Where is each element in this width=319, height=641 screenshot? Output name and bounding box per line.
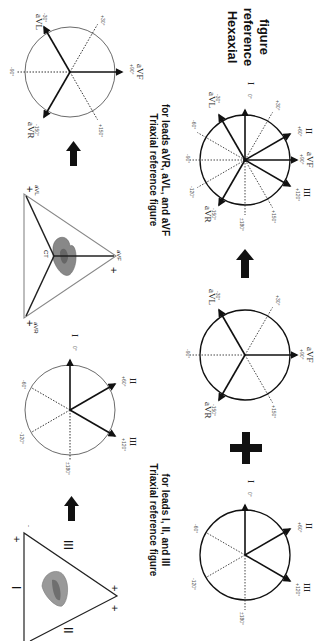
axis-minus120 — [31, 410, 70, 433]
hex-lead-aVR — [219, 160, 245, 205]
plus-connector-icon — [230, 432, 262, 464]
hex-label-III: III — [302, 188, 312, 197]
flow-arrow-3 — [236, 249, 254, 278]
angle-minus120: -120° — [19, 432, 25, 444]
title-hexaxial-line3: figure — [257, 19, 272, 55]
flow-arrow-2 — [64, 496, 79, 521]
hex-lead-II — [245, 134, 290, 160]
hex-label-I: I — [246, 82, 256, 85]
title-hexaxial: Hexaxial reference figure — [225, 8, 272, 67]
hex-angle-minus120: -120° — [189, 186, 195, 198]
std2-angle-minus120: -120° — [191, 578, 197, 590]
plus-right-lower: + — [109, 605, 121, 611]
aug2-angle-plus30: +30° — [275, 295, 281, 305]
plus-top-left: + — [11, 536, 23, 542]
lead-aVR-arrow — [44, 72, 70, 117]
aug2-label-aVF: aVF — [305, 347, 315, 363]
label-III: III — [128, 437, 138, 446]
label-II: II — [128, 378, 138, 384]
hex-angle-plus30: +30° — [275, 100, 281, 110]
hex-lead-III — [245, 160, 290, 186]
std2-axis-minus60 — [206, 533, 245, 556]
title-standard-line2: for leads I, II, and III — [160, 474, 171, 567]
std2-lead-III — [245, 555, 290, 581]
ecg-lead-diagram: aVL -30° +30° -90° +90° aVF aVR -150° +1… — [0, 0, 319, 641]
angle-II: +60° — [121, 376, 127, 386]
hex-angle-minus90: -90° — [185, 154, 191, 163]
std2-angle-minus60: -60° — [193, 524, 199, 533]
axis-plus150 — [70, 72, 98, 120]
hex-angle-III: +120° — [295, 188, 301, 201]
aug2-angle-plus150: +150° — [271, 405, 277, 418]
title-standard-line1: Triaxial reference figure — [148, 464, 159, 577]
label-aVF-tri: aVF — [116, 250, 122, 261]
lead-I-side: I — [9, 586, 23, 589]
plus-right-upper: + — [109, 585, 121, 591]
label-aVL-tri: aVL — [34, 185, 40, 196]
std2-axis-minus120 — [206, 555, 245, 578]
angle-I: 0° — [72, 346, 78, 351]
aug2-angle-aVR: -150° — [211, 404, 217, 416]
std2-angle-180: ±180° — [239, 612, 245, 625]
hex-label-II: II — [304, 128, 314, 134]
augmented-circle-2: aVL -30° +30° -90° +90° aVF aVR -150° +1… — [185, 289, 315, 419]
triaxial-standard-circle: 0° I -60° +60° II -120° +120° III ±180° — [19, 334, 138, 475]
angle-minus60: -60° — [21, 380, 27, 389]
angle-plus150: +150° — [98, 124, 104, 137]
label-I: I — [70, 334, 80, 337]
einthoven-triangle: I II III + + + - — [9, 525, 121, 641]
angle-aVL: -30° — [42, 13, 48, 22]
lead-III-side: III — [61, 540, 75, 550]
title-hexaxial-line1: Hexaxial — [225, 11, 240, 64]
hex-angle-180: ±180° — [239, 218, 245, 231]
std2-angle-III: +120° — [295, 583, 301, 596]
label-aVR-tri: aVR — [33, 322, 39, 334]
std2-angle-I: 0° — [247, 492, 253, 497]
hex-label-aVF: aVF — [305, 152, 315, 168]
aug2-angle-minus90: -90° — [185, 349, 191, 358]
flow-arrow-1 — [66, 141, 81, 166]
title-augmented-line2: for leads aVR, aVL, and aVF — [160, 104, 171, 236]
aug2-axis-plus30 — [245, 307, 273, 355]
minus-top: - — [26, 525, 32, 527]
hex-angle-minus60: -60° — [191, 120, 197, 129]
augmented-triangle: CT + aVL aVF + + aVR — [24, 185, 122, 334]
std2-label-III: III — [302, 583, 312, 592]
aug2-axis-plus150 — [245, 355, 273, 403]
std2-label-I: I — [246, 480, 256, 483]
angle-minus90: -90° — [9, 67, 15, 76]
standard-circle-2: 0° I -60° +60° II -120° +120° III ±180° — [191, 480, 314, 625]
aug2-lead-aVR — [219, 355, 245, 400]
title-augmented-line1: Triaxial reference figure — [148, 114, 159, 227]
lead-II-side: II — [61, 627, 75, 634]
axis-minus60 — [31, 388, 70, 411]
angle-aVR: -150° — [34, 124, 40, 136]
hex-angle-aVF: +90° — [299, 154, 305, 164]
axis-plus30 — [70, 24, 98, 72]
title-augmented: Triaxial reference figure for leads aVR,… — [148, 104, 171, 236]
aug2-angle-aVF: +90° — [299, 349, 305, 359]
plus-aVF: + — [108, 267, 120, 273]
std2-label-II: II — [304, 523, 314, 529]
label-CT: CT — [43, 250, 49, 258]
lead-II-arrow — [70, 384, 115, 410]
hex-angle-aVR: -150° — [211, 208, 217, 220]
title-hexaxial-line2: reference — [241, 8, 256, 67]
lead-aVL-arrow — [44, 27, 70, 72]
std2-lead-II — [245, 529, 290, 555]
lead-III-arrow — [70, 410, 115, 436]
hex-angle-II: +60° — [297, 126, 303, 136]
hex-lead-aVL — [219, 115, 245, 160]
angle-aVF: +90° — [129, 64, 135, 74]
angle-180: ±180° — [65, 462, 71, 475]
angle-plus30: +30° — [100, 15, 106, 25]
angle-III: +120° — [121, 438, 127, 451]
std2-angle-II: +60° — [297, 522, 303, 532]
aug2-lead-aVL — [219, 310, 245, 355]
label-aVF: aVF — [135, 64, 145, 80]
hex-angle-plus150: +150° — [271, 210, 277, 223]
hex-angle-I: 0° — [247, 94, 253, 99]
hexaxial-circle: 0° I aVL -30° +30° -60° +60° II -90° +90… — [185, 82, 315, 231]
triaxial-augmented-circle: aVL -30° +30° -90° +90° aVF aVR -150° +1… — [9, 13, 145, 139]
aug2-angle-aVL: -30° — [215, 291, 221, 300]
